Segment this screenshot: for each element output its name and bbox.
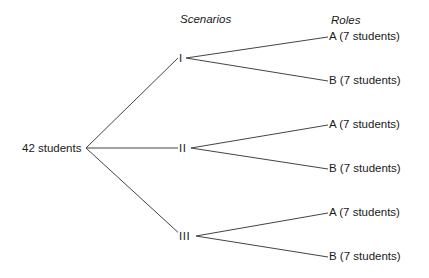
role-leaf-i-a: A (7 students): [329, 29, 400, 43]
edge-scenario-3-to-role-2: [196, 236, 328, 257]
edge-scenario-1-to-role-2: [186, 58, 328, 81]
edge-scenario-2-to-role-2: [191, 148, 328, 169]
role-leaf-iii-b: B (7 students): [329, 249, 401, 263]
edge-scenario-1-to-role-1: [186, 37, 328, 58]
root-node-label: 42 students: [22, 141, 81, 155]
scenario-node-i: I: [178, 51, 184, 65]
edge-root-to-scenario-3: [86, 148, 182, 236]
scenarios-header: Scenarios: [180, 12, 231, 26]
edge-scenario-3-to-role-1: [196, 213, 328, 236]
scenario-node-ii: II: [178, 141, 187, 155]
scenario-node-iii: III: [178, 229, 191, 243]
role-leaf-ii-a: A (7 students): [329, 117, 400, 131]
role-leaf-iii-a: A (7 students): [329, 205, 400, 219]
edge-root-to-scenario-1: [86, 58, 178, 148]
roles-header: Roles: [331, 13, 360, 27]
role-leaf-i-b: B (7 students): [329, 73, 401, 87]
role-leaf-ii-b: B (7 students): [329, 161, 401, 175]
edge-scenario-2-to-role-1: [191, 125, 328, 148]
